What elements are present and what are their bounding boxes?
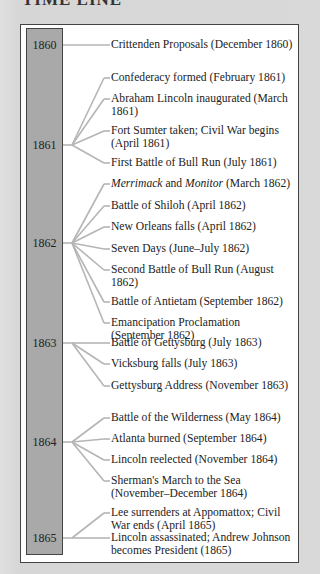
timeline-event: First Battle of Bull Run (July 1861) xyxy=(111,156,294,169)
timeline-event: Gettysburg Address (November 1863) xyxy=(111,379,294,392)
section-title: TIME LINE xyxy=(22,0,122,10)
timeline-event: Sherman's March to the Sea (November–Dec… xyxy=(111,474,294,500)
year-bar xyxy=(26,28,63,555)
timeline-event: Confederacy formed (February 1861) xyxy=(111,71,294,84)
year-label-1863: 1863 xyxy=(26,336,63,350)
year-label-1864: 1864 xyxy=(26,435,63,449)
year-label-1865: 1865 xyxy=(26,531,63,545)
timeline-event: Lincoln assassinated; Andrew Johnson bec… xyxy=(111,531,294,557)
timeline-event: Fort Sumter taken; Civil War begins (Apr… xyxy=(111,124,294,150)
timeline-event: Battle of Gettysburg (July 1863) xyxy=(111,336,294,349)
timeline-event: Vicksburg falls (July 1863) xyxy=(111,357,294,370)
timeline-event: Seven Days (June–July 1862) xyxy=(111,242,294,255)
timeline-event: Second Battle of Bull Run (August 1862) xyxy=(111,263,294,289)
timeline-event: Battle of Shiloh (April 1862) xyxy=(111,199,294,212)
timeline-event: Atlanta burned (September 1864) xyxy=(111,432,294,445)
timeline-event: Battle of the Wilderness (May 1864) xyxy=(111,411,294,424)
timeline-event: Lee surrenders at Appomattox; Civil War … xyxy=(111,506,294,532)
timeline-event: Battle of Antietam (September 1862) xyxy=(111,295,294,308)
timeline-event: Lincoln reelected (November 1864) xyxy=(111,453,294,466)
year-label-1860: 1860 xyxy=(26,38,63,52)
timeline-event: Abraham Lincoln inaugurated (March 1861) xyxy=(111,92,294,118)
year-label-1861: 1861 xyxy=(26,138,63,152)
timeline-event: Crittenden Proposals (December 1860) xyxy=(111,38,294,51)
year-label-1862: 1862 xyxy=(26,236,63,250)
timeline-event: Merrimack and Monitor (March 1862) xyxy=(111,177,294,190)
timeline-event: New Orleans falls (April 1862) xyxy=(111,220,294,233)
